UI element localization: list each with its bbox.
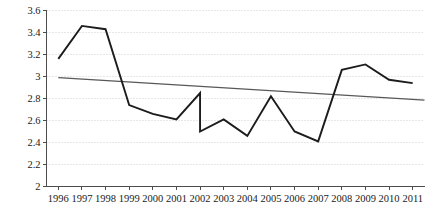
x-axis-tick-label: 1997 — [71, 193, 92, 204]
y-axis-tick-label: 2.2 — [27, 159, 40, 170]
y-axis-tick-label: 3.2 — [27, 49, 40, 60]
y-axis-tick-labels-group: 22.22.42.62.833.23.43.6 — [27, 5, 41, 192]
gridlines-group — [47, 11, 425, 165]
line-chart: 22.22.42.62.833.23.43.6 1996199719981999… — [0, 0, 436, 212]
x-axis-tick-label: 2001 — [166, 193, 187, 204]
y-axis-tick-label: 2.4 — [27, 137, 41, 148]
x-axis-tick-labels-group: 1996199719981999200020012002200320042005… — [48, 193, 423, 204]
y-axis-tick-label: 2 — [35, 181, 40, 192]
x-axis-tick-label: 2008 — [331, 193, 352, 204]
x-axis-tick-label: 2010 — [379, 193, 400, 204]
y-axis-tick-label: 2.6 — [27, 115, 40, 126]
trendline-series — [58, 78, 424, 101]
x-axis-tick-label: 2006 — [284, 193, 305, 204]
x-axis-tick-label: 1998 — [95, 193, 116, 204]
data-series-line — [58, 26, 412, 141]
y-axis-ticks-group — [43, 11, 47, 187]
x-axis-ticks-group — [58, 187, 412, 191]
x-axis-tick-label: 2003 — [213, 193, 234, 204]
x-axis-tick-label: 1999 — [119, 193, 140, 204]
y-axis-tick-label: 3.6 — [27, 5, 40, 16]
x-axis-tick-label: 2004 — [237, 193, 259, 204]
x-axis-tick-label: 2007 — [308, 193, 329, 204]
y-axis-tick-label: 2.8 — [27, 93, 40, 104]
x-axis-tick-label: 1996 — [48, 193, 69, 204]
y-axis-tick-label: 3 — [35, 71, 40, 82]
x-axis-tick-label: 2005 — [260, 193, 281, 204]
x-axis-tick-label: 2009 — [355, 193, 376, 204]
x-axis-tick-label: 2000 — [142, 193, 163, 204]
chart-canvas: 22.22.42.62.833.23.43.6 1996199719981999… — [0, 0, 436, 212]
y-axis-tick-label: 3.4 — [27, 27, 41, 38]
x-axis-tick-label: 2002 — [190, 193, 211, 204]
x-axis-tick-label: 2011 — [402, 193, 423, 204]
